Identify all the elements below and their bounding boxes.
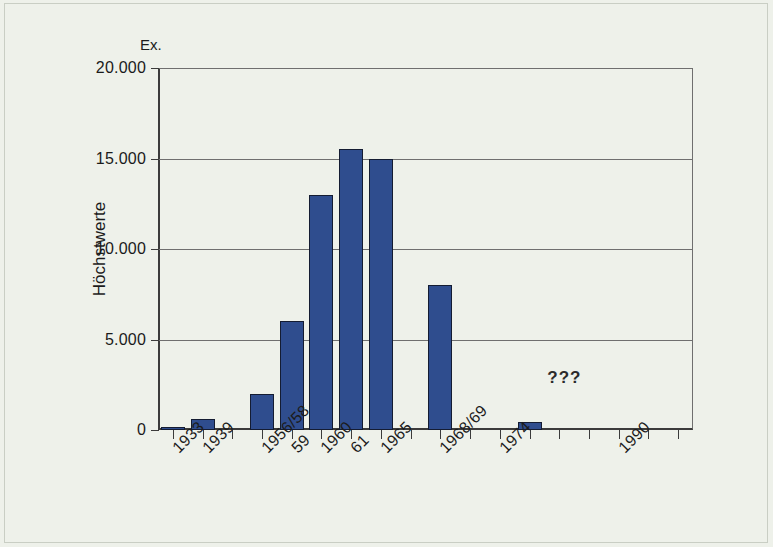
y-axis-tick [151, 430, 159, 431]
y-axis-tick [151, 340, 159, 341]
y-axis-tick-label: 15.000 [96, 150, 146, 168]
unknown-value-annotation: ??? [547, 368, 581, 388]
bar [250, 394, 274, 430]
bar [428, 285, 452, 430]
gridline [158, 340, 693, 341]
x-axis-tick [559, 430, 560, 439]
y-axis-tick-label: 5.000 [105, 331, 146, 349]
y-axis-tick [151, 249, 159, 250]
y-axis-tick-label: 0 [137, 421, 146, 439]
x-axis-tick [678, 430, 679, 439]
gridline [158, 159, 693, 160]
y-axis-tick [151, 159, 159, 160]
gridline [158, 68, 693, 69]
bar [369, 159, 393, 431]
y-axis-tick [151, 68, 159, 69]
gridline [158, 249, 693, 250]
bar [309, 195, 333, 430]
bar [339, 149, 363, 430]
plot-area: Höchstwerte 05.00010.00015.00020.000 193… [158, 68, 693, 430]
y-axis-unit-label: Ex. [140, 36, 162, 53]
chart-page: Ex. Höchstwerte 05.00010.00015.00020.000… [0, 0, 773, 547]
y-axis-tick-label: 10.000 [96, 240, 146, 258]
x-axis-tick [589, 430, 590, 439]
y-axis-tick-label: 20.000 [96, 59, 146, 77]
